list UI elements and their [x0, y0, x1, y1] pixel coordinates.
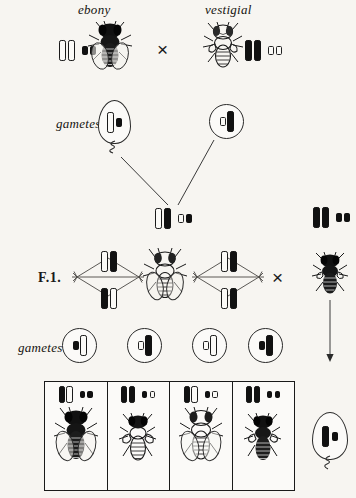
chromosome-long-filled	[101, 288, 108, 309]
chromosome-long-filled	[121, 386, 127, 403]
offspring-3-chromosomes	[184, 386, 218, 403]
chromosome-dot-filled	[80, 391, 85, 399]
chromosome-long-filled	[230, 251, 237, 272]
offspring-2-chromosomes	[121, 386, 155, 403]
chromosome-dot-filled	[87, 391, 92, 399]
f1-gamete-3-chromosomes	[202, 335, 218, 356]
offspring-4-fly	[243, 403, 283, 474]
chromosome-long-filled	[110, 251, 117, 272]
chromosome-dot-filled	[205, 391, 210, 399]
offspring-cell-2	[108, 382, 171, 490]
genetics-diagram-canvas: ebony vestigial	[0, 0, 356, 498]
chromosome-long-open	[221, 251, 228, 272]
chromosome-long-filled	[184, 386, 190, 403]
f1-gamete-cell-4	[248, 328, 283, 363]
chromosome-long-filled	[322, 426, 329, 447]
f1-label: F.1.	[38, 270, 61, 286]
offspring-3-fly	[177, 403, 225, 470]
offspring-results-box	[44, 381, 295, 491]
chromosome-long-filled	[266, 335, 273, 356]
f1-right-spindle-bottom-chromosomes	[221, 288, 237, 309]
chromosome-dot-open	[203, 341, 209, 350]
chromosome-dot-filled	[73, 341, 79, 350]
chromosome-dot-open	[138, 341, 144, 350]
f1-left-spindle-bottom-chromosomes	[101, 288, 117, 309]
chromosome-long-filled	[129, 386, 135, 403]
chromosome-dot-filled	[267, 391, 272, 399]
chromosome-long-open	[66, 386, 72, 403]
offspring-4-chromosomes	[246, 386, 280, 403]
chromosome-dot-filled	[275, 391, 280, 399]
f1-gamete-2-chromosomes	[137, 335, 153, 356]
f1-cross-symbol: ×	[272, 268, 283, 287]
chromosome-long-filled	[230, 288, 237, 309]
f1-gamete-4-chromosomes	[258, 335, 274, 356]
chromosome-long-open	[80, 335, 87, 356]
f1-fly	[142, 248, 188, 306]
tester-egg-gamete	[312, 412, 348, 460]
chromosome-long-open	[210, 335, 217, 356]
chromosome-dot-filled	[142, 391, 147, 399]
chromosome-long-filled	[254, 386, 260, 403]
f1-gamete-1-chromosomes	[72, 335, 88, 356]
f1-left-spindle-top-chromosomes	[101, 251, 117, 272]
chromosome-long-filled	[59, 386, 65, 403]
chromosome-long-open	[191, 386, 197, 403]
offspring-cell-4	[233, 382, 295, 490]
chromosome-dot-filled	[259, 341, 265, 350]
gametes-label-2: gametes	[18, 340, 63, 356]
f1-gamete-cell-3	[192, 328, 227, 363]
offspring-1-fly	[52, 403, 100, 470]
f1-gamete-cell-2	[127, 328, 162, 363]
offspring-1-chromosomes	[59, 386, 93, 403]
chromosome-long-open	[221, 288, 228, 309]
chromosome-long-open	[110, 288, 117, 309]
tester-egg-chromosomes	[322, 426, 338, 447]
f1-right-spindle-top-chromosomes	[221, 251, 237, 272]
chromosome-dot-open	[212, 391, 217, 399]
offspring-cell-3	[170, 382, 233, 490]
chromosome-long-filled	[246, 386, 252, 403]
offspring-2-fly	[117, 403, 159, 474]
chromosome-dot-open	[150, 391, 155, 399]
f1-gamete-cell-1	[62, 328, 97, 363]
tester-egg-tail-squiggle	[320, 456, 340, 470]
chromosome-long-filled	[145, 335, 152, 356]
chromosome-dot-filled	[332, 432, 338, 441]
chromosome-long-open	[101, 251, 108, 272]
offspring-cell-1	[45, 382, 108, 490]
